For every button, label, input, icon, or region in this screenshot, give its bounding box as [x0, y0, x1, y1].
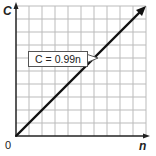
y-axis-label: C: [3, 4, 12, 18]
equation-callout: C = 0.99n: [28, 51, 88, 67]
x-axis-label: n: [139, 139, 146, 153]
equation-text: C = 0.99n: [35, 53, 81, 65]
origin-label: 0: [5, 139, 11, 151]
chart-canvas: [0, 0, 156, 156]
